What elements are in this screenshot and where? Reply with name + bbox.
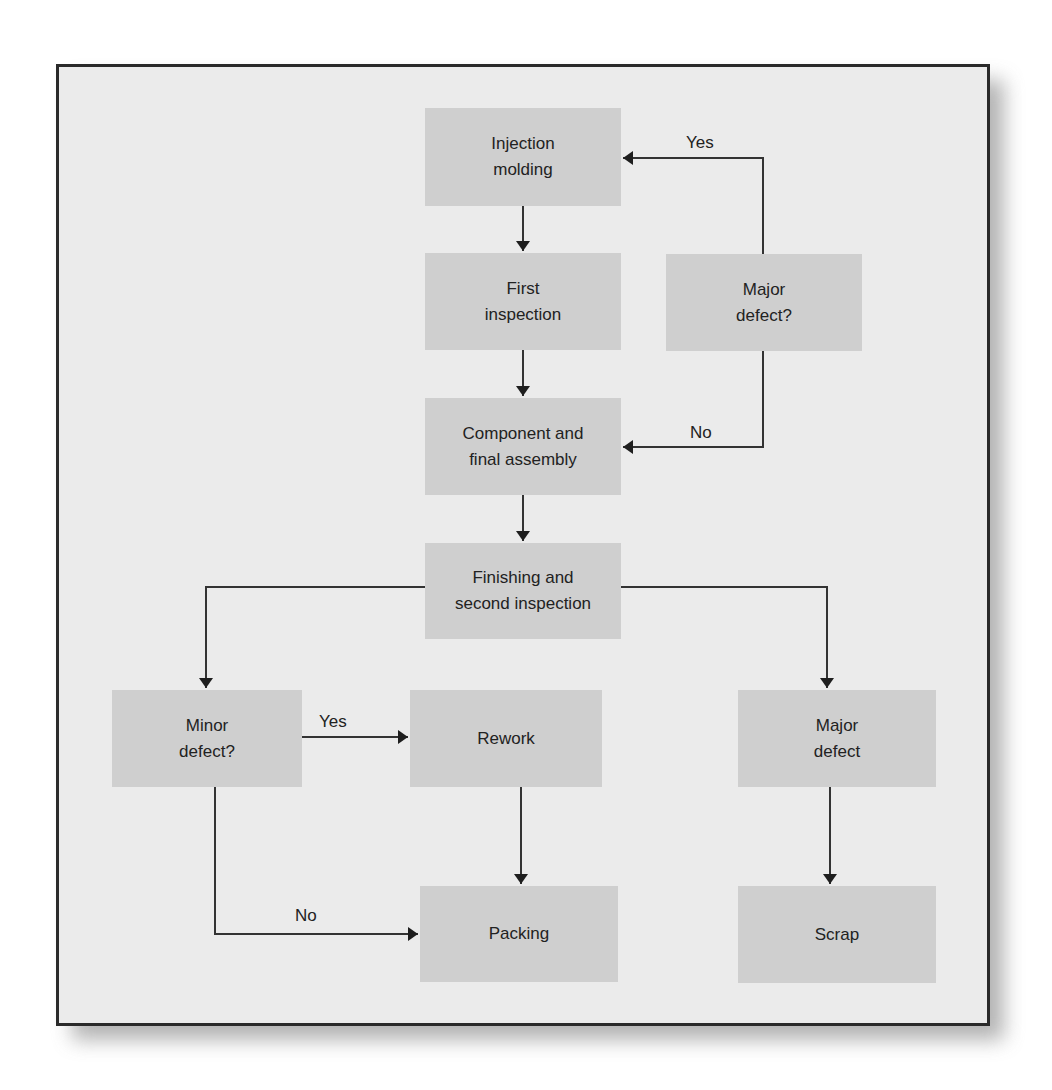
node-injection-molding: Injection molding xyxy=(425,108,621,206)
node-rework: Rework xyxy=(410,690,602,787)
edge-label-minor-no: No xyxy=(295,906,317,926)
node-major-defect-question: Major defect? xyxy=(666,254,862,351)
node-major-defect: Major defect xyxy=(738,690,936,787)
node-first-inspection: First inspection xyxy=(425,253,621,350)
node-scrap: Scrap xyxy=(738,886,936,983)
node-minor-defect-question: Minor defect? xyxy=(112,690,302,787)
node-component-assembly: Component and final assembly xyxy=(425,398,621,495)
edge-label-minor-yes: Yes xyxy=(319,712,347,732)
node-packing: Packing xyxy=(420,886,618,982)
edge-label-major-yes: Yes xyxy=(686,133,714,153)
edge-label-major-no: No xyxy=(690,423,712,443)
node-finishing-inspection: Finishing and second inspection xyxy=(425,543,621,639)
